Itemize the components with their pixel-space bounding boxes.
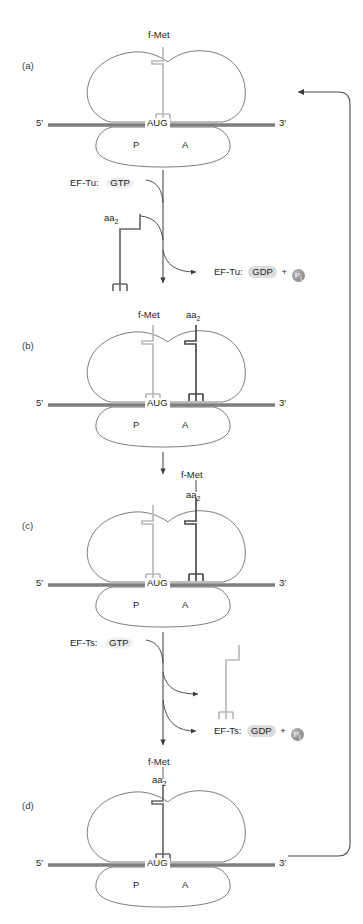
codon-label: AUG — [145, 398, 170, 408]
gtp-pill: GTP — [104, 637, 134, 649]
five-prime-label: 5′ — [36, 578, 43, 588]
panel-label-c: (c) — [22, 521, 33, 531]
panel-label-b: (b) — [22, 341, 34, 351]
p-site-label: P — [133, 880, 139, 890]
ribosome-large-subunit — [87, 51, 245, 122]
three-prime-label: 3′ — [279, 398, 286, 408]
ef-ts-in-text: EF-Ts: — [70, 637, 97, 648]
plus-sign: + — [280, 725, 286, 736]
a-site-label: A — [182, 140, 188, 150]
five-prime-label: 5′ — [36, 398, 43, 408]
ribosome-small-subunit — [96, 127, 230, 167]
trna-a-site-aa2 — [185, 325, 203, 401]
p-site-label: P — [133, 600, 139, 610]
ribosome-small-subunit — [96, 407, 230, 447]
codon-label: AUG — [145, 578, 170, 588]
fmet-label: f-Met — [181, 470, 203, 480]
ribosome-large-subunit — [87, 331, 245, 402]
aa-text: aa — [104, 212, 115, 223]
gdp-pill: GDP — [247, 725, 276, 737]
cycle-return-arrow — [288, 92, 350, 856]
p-site-label: P — [133, 420, 139, 430]
step1-gtp-in-arrow — [146, 180, 163, 203]
incoming-aa2-label: aa2 — [104, 213, 118, 225]
ribosome-small-subunit — [96, 587, 230, 627]
step2-gdp-out-arrow — [163, 700, 196, 731]
ef-tu-out-text: EF-Tu: — [214, 266, 243, 277]
p-site-label: P — [133, 140, 139, 150]
a-site-label: A — [182, 420, 188, 430]
panel-d-graphics — [48, 767, 275, 907]
gtp-pill: GTP — [105, 177, 135, 189]
ef-ts-gtp-label: EF-Ts: GTP — [70, 637, 134, 649]
trna-p-site-dipeptide — [152, 785, 170, 861]
three-prime-label: 3′ — [279, 118, 286, 128]
three-prime-label: 3′ — [279, 858, 286, 868]
ef-tu-gtp-label: EF-Tu: GTP — [70, 177, 135, 189]
step1-gdp-out-arrow — [163, 250, 196, 272]
three-prime-label: 3′ — [279, 578, 286, 588]
ef-tu-in-text: EF-Tu: — [70, 177, 99, 188]
panel-label-d: (d) — [22, 801, 34, 811]
ribosome-large-subunit — [87, 791, 245, 862]
a-site-label: A — [182, 880, 188, 890]
phosphate-icon: Pi — [292, 269, 305, 282]
fmet-label: f-Met — [148, 757, 170, 767]
trna-released — [219, 645, 239, 719]
step1-trna-in-arrow — [141, 216, 163, 240]
ribosome-small-subunit — [96, 867, 230, 907]
ef-ts-gdp-label: EF-Ts: GDP + Pi — [214, 725, 304, 741]
panel-b-graphics — [48, 325, 275, 447]
aa-subscript: 2 — [115, 218, 119, 225]
codon-label: AUG — [145, 118, 170, 128]
ef-ts-out-text: EF-Ts: — [214, 725, 241, 736]
plus-sign: + — [282, 266, 288, 277]
step2-gtp-in-arrow — [146, 640, 163, 663]
figure-canvas: (a) (b) (c) (d) f-Met 5′ 3′ AUG P A EF-T… — [0, 0, 363, 924]
trna-incoming-aa2 — [113, 214, 140, 291]
panel-label-a: (a) — [22, 61, 34, 71]
ef-tu-gdp-label: EF-Tu: GDP + Pi — [214, 266, 305, 282]
gdp-pill: GDP — [248, 266, 277, 278]
a-site-label: A — [182, 600, 188, 610]
step2-trna-out-arrow — [163, 672, 198, 694]
aa2-label: aa2 — [186, 490, 200, 502]
aa2-label: aa2 — [152, 775, 166, 787]
ribosome-large-subunit — [87, 511, 245, 582]
phosphate-icon: Pi — [291, 728, 304, 741]
codon-label: AUG — [145, 858, 170, 868]
five-prime-label: 5′ — [36, 118, 43, 128]
panel-a-graphics — [48, 47, 275, 167]
aa2-label: aa2 — [186, 310, 200, 322]
five-prime-label: 5′ — [36, 858, 43, 868]
fmet-label: f-Met — [138, 310, 160, 320]
fmet-label: f-Met — [148, 30, 170, 40]
panel-c-graphics — [48, 480, 275, 627]
